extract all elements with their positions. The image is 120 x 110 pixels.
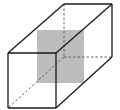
prism-diagram (0, 0, 120, 110)
cross-section-rectangle (37, 30, 84, 83)
